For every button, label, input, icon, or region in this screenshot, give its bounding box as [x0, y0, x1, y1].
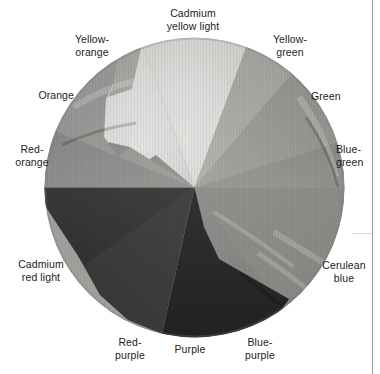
color-wheel: [44, 37, 345, 338]
label-blue-purple: Blue- purple: [234, 336, 286, 361]
label-blue-green: Blue- green: [336, 143, 380, 168]
label-cadmium-yellow-light: Cadmium yellow light: [141, 7, 245, 32]
page-margin-tick: [352, 233, 372, 234]
label-purple: Purple: [164, 343, 216, 356]
figure-page: Cadmium yellow light Yellow- orange Oran…: [0, 0, 380, 374]
label-cadmium-red-light: Cadmium red light: [1, 258, 81, 283]
label-green: Green: [311, 90, 361, 103]
label-red-purple: Red- purple: [105, 336, 155, 361]
label-cerulean-blue: Cerulean blue: [313, 259, 375, 284]
page-margin-rule: [372, 0, 373, 374]
label-yellow-orange: Yellow- orange: [56, 33, 128, 58]
label-orange: Orange: [10, 89, 74, 102]
label-red-orange: Red- orange: [2, 143, 62, 168]
color-wheel-graphic: [44, 37, 345, 338]
label-yellow-green: Yellow- green: [258, 33, 322, 58]
